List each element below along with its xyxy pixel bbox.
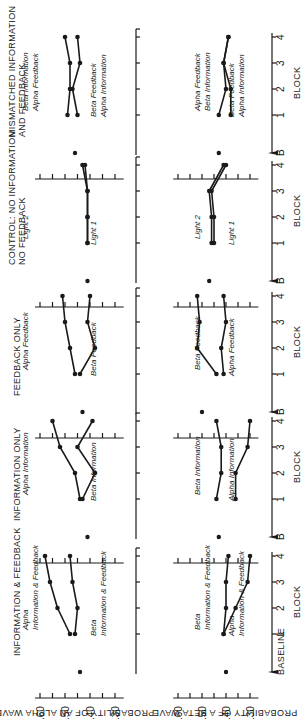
alpha-data-point (70, 580, 75, 585)
beta-series-line (236, 421, 250, 499)
beta-baseline-point (200, 410, 204, 414)
beta-data-point (248, 419, 253, 424)
alpha-series-line (85, 165, 88, 243)
block-tick-label: 2 (275, 605, 286, 611)
block-tick-label: 3 (275, 60, 286, 66)
alpha-series-label: Alpha Information (99, 54, 108, 118)
alpha-data-point (68, 61, 73, 66)
beta-data-point (212, 241, 217, 246)
alpha-data-point (75, 606, 80, 611)
beta-data-point (209, 189, 214, 194)
alpha-data-point (65, 113, 70, 118)
block-tick-label: 1 (275, 112, 286, 118)
block-tick-label: 3 (275, 579, 286, 585)
beta-data-point (226, 554, 231, 559)
alpha-baseline-point (80, 410, 84, 414)
block-tick-label: 4 (275, 553, 286, 559)
beta-series-line (216, 421, 221, 499)
beta-data-point (219, 471, 224, 476)
alpha-data-point (68, 554, 73, 559)
alpha-baseline-point (85, 279, 89, 283)
alpha-data-point (50, 419, 55, 424)
alpha-baseline-point (73, 151, 77, 155)
block-tick-label: 3 (275, 444, 286, 450)
beta-data-point (226, 35, 231, 40)
block-tick-label: 3 (275, 319, 286, 325)
baseline-label: B (275, 149, 286, 156)
block-tick-label: 4 (275, 293, 286, 299)
alpha-data-point (48, 580, 53, 585)
block-axis-title: BLOCK (292, 325, 302, 358)
rotated-figure: INFORMATION & FEEDBACK.60.60.50.50.40.40… (0, 0, 308, 719)
alpha-series-line (70, 556, 78, 634)
alpha-data-point (90, 419, 95, 424)
beta-series-line (221, 296, 226, 374)
alpha-series-label: Beta Information (89, 442, 98, 501)
alpha-baseline-point (78, 670, 82, 674)
alpha-data-point (75, 445, 80, 450)
block-tick-label: 4 (275, 418, 286, 424)
beta-series-label: Information & Feedback (203, 544, 212, 630)
alpha-data-point (73, 471, 78, 476)
alpha-series-line (45, 556, 70, 634)
block-axis-title: BLOCK (292, 66, 302, 99)
alpha-series-line (63, 296, 76, 374)
beta-data-point (224, 606, 229, 611)
beta-baseline-point (217, 535, 221, 539)
beta-data-point (224, 580, 229, 585)
beta-baseline-point (224, 670, 228, 674)
baseline-label: BASELINE (276, 628, 286, 675)
alpha-series-label: Alpha Feedback (31, 52, 40, 112)
beta-series-label: Light 1 (227, 221, 236, 245)
beta-series-line (209, 165, 223, 243)
beta-data-point (219, 346, 224, 351)
beta-data-point (221, 294, 226, 299)
alpha-series-label: Information & Feedback (31, 544, 40, 630)
beta-data-point (214, 372, 219, 377)
beta-data-point (212, 215, 217, 220)
block-tick-label: 4 (275, 162, 286, 168)
block-tick-label: 2 (275, 345, 286, 351)
beta-series-label: Alpha Information (227, 438, 236, 502)
panel-title: CONTROL: NO INFORMATION (7, 131, 17, 265)
block-tick-label: 2 (275, 86, 286, 92)
beta-baseline-point (207, 279, 211, 283)
alpha-data-point (83, 163, 88, 168)
beta-series-label: Alpha Feedback (193, 52, 202, 112)
alpha-data-point (58, 445, 63, 450)
alpha-data-point (78, 372, 83, 377)
block-tick-label: 2 (275, 214, 286, 220)
alpha-data-point (73, 632, 78, 637)
alpha-data-point (70, 87, 75, 92)
panel-title: INFORMATION & FEEDBACK (12, 528, 22, 656)
alpha-series-line (53, 421, 81, 499)
alpha-series-label: Alpha (21, 609, 30, 631)
block-tick-label: 1 (275, 371, 286, 377)
beta-series-label: Beta Feedback (193, 315, 202, 370)
beta-series-label: Light 2 (193, 214, 202, 239)
beta-series-label: Beta Feedback (227, 62, 236, 117)
chart-canvas: INFORMATION & FEEDBACK.60.60.50.50.40.40… (0, 0, 308, 719)
alpha-series-label: Beta (89, 619, 98, 636)
beta-data-point (214, 419, 219, 424)
alpha-series-label: Light 1 (89, 221, 98, 245)
alpha-data-point (78, 61, 83, 66)
alpha-series-label: Beta Information (21, 52, 30, 111)
beta-series-label: Beta Information (203, 52, 212, 111)
baseline-label: B (275, 408, 286, 415)
alpha-data-point (60, 294, 65, 299)
alpha-data-point (68, 632, 73, 637)
alpha-data-point (85, 215, 90, 220)
alpha-series-label: Alpha Feedback (21, 311, 30, 371)
alpha-series-line (73, 37, 81, 115)
block-tick-label: 1 (275, 240, 286, 246)
alpha-series-label: Beta Feedback (89, 321, 98, 376)
alpha-axis-title: PROBABILITY OF AN ALPHA WAVE (0, 708, 154, 718)
beta-baseline-point (217, 151, 221, 155)
alpha-series-label: Alpha Information (21, 432, 30, 496)
alpha-data-point (68, 346, 73, 351)
beta-data-point (245, 445, 250, 450)
block-tick-label: 2 (275, 470, 286, 476)
block-tick-label: 4 (275, 34, 286, 40)
beta-series-label: Alpha Feedback (227, 317, 236, 377)
